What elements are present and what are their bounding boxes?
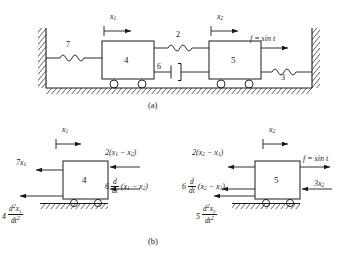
caption-b: (b) xyxy=(148,236,158,246)
force-label-damper-coupling-left: 6 ddt (x1 − x2) xyxy=(105,178,148,194)
force-label-damper-coupling-right: 6 ddt (x2 − x1) xyxy=(182,178,225,194)
force-label-applied-right: f = sin t xyxy=(303,154,328,163)
x2-label-fbd: x2 xyxy=(269,125,275,134)
x1-arrow-fbd-graphic xyxy=(56,139,81,149)
mass-5-label: 5 xyxy=(231,55,236,65)
mass-5-label-fbd: 5 xyxy=(274,175,279,185)
force-label-inertia-left: 4 d2x1dt2 xyxy=(2,203,23,225)
spring-3-graphic xyxy=(261,69,312,75)
damper-6-graphic xyxy=(154,64,209,81)
spring-7-label: 7 xyxy=(66,40,70,49)
figure-root: 7 4 2 6 5 3 x1 x2 f = sin t (a) x1 4 7x1… xyxy=(0,0,358,258)
force-label-spring-coupling-left: 2(x1 − x2) xyxy=(105,148,136,157)
spring-7-graphic xyxy=(46,55,102,61)
mass-4-label-fbd: 4 xyxy=(82,175,87,185)
force-label-inertia-right: 5 d2x2dt2 xyxy=(196,203,217,225)
force-label-spring-coupling-right: 2(x2 − x1) xyxy=(192,148,223,157)
left-wall xyxy=(38,28,46,88)
force-label-3x2: 3x2 xyxy=(314,179,324,188)
right-wall xyxy=(312,28,320,88)
mass-4-label: 4 xyxy=(124,55,129,65)
damper-6-label: 6 xyxy=(157,62,161,71)
x2-label: x2 xyxy=(217,12,223,21)
spring-2-label: 2 xyxy=(176,30,180,39)
x1-label-fbd: x1 xyxy=(62,125,68,134)
ground-surface xyxy=(46,88,312,94)
force-label-7x1: 7x1 xyxy=(16,158,26,167)
caption-a: (a) xyxy=(148,100,157,110)
spring-3-label: 3 xyxy=(281,73,285,82)
x1-label: x1 xyxy=(110,12,116,21)
x1-arrow-graphic xyxy=(104,26,131,36)
panel-b-right-graphics xyxy=(214,139,332,209)
x2-arrow-fbd-graphic xyxy=(263,139,288,149)
applied-force-label: f = sin t xyxy=(250,34,275,43)
spring-2-graphic xyxy=(154,45,209,51)
x2-arrow-graphic xyxy=(211,26,238,36)
